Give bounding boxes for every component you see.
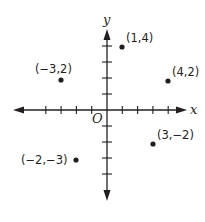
point-neg2-neg3: (−2,−3): [21, 153, 79, 167]
point-neg3-2: (−3,2): [35, 62, 72, 83]
point-1-4: (1,4): [119, 31, 153, 50]
point-label: (3,−2): [157, 128, 194, 142]
x-axis-label: x: [190, 102, 198, 117]
point-3-neg2: (3,−2): [150, 128, 194, 147]
y-axis-label: y: [102, 12, 111, 27]
point-marker: [58, 77, 63, 82]
point-4-2: (4,2): [165, 65, 199, 84]
x-axis-left-arrow-icon: [13, 107, 24, 114]
y-axis-down-arrow-icon: [104, 190, 111, 201]
point-label: (−2,−3): [21, 153, 68, 167]
coordinate-plane: y x O (1,4) (−3,2) (4,2) (3,−2) (−2,−3): [0, 0, 205, 222]
point-marker: [73, 157, 78, 162]
point-label: (1,4): [126, 31, 153, 45]
point-label: (4,2): [172, 65, 199, 79]
point-marker: [119, 44, 124, 49]
x-axis-right-arrow-icon: [176, 107, 187, 114]
origin-label: O: [92, 111, 103, 126]
point-marker: [165, 78, 170, 83]
y-axis-up-arrow-icon: [104, 29, 111, 40]
point-marker: [150, 141, 155, 146]
point-label: (−3,2): [35, 62, 72, 76]
